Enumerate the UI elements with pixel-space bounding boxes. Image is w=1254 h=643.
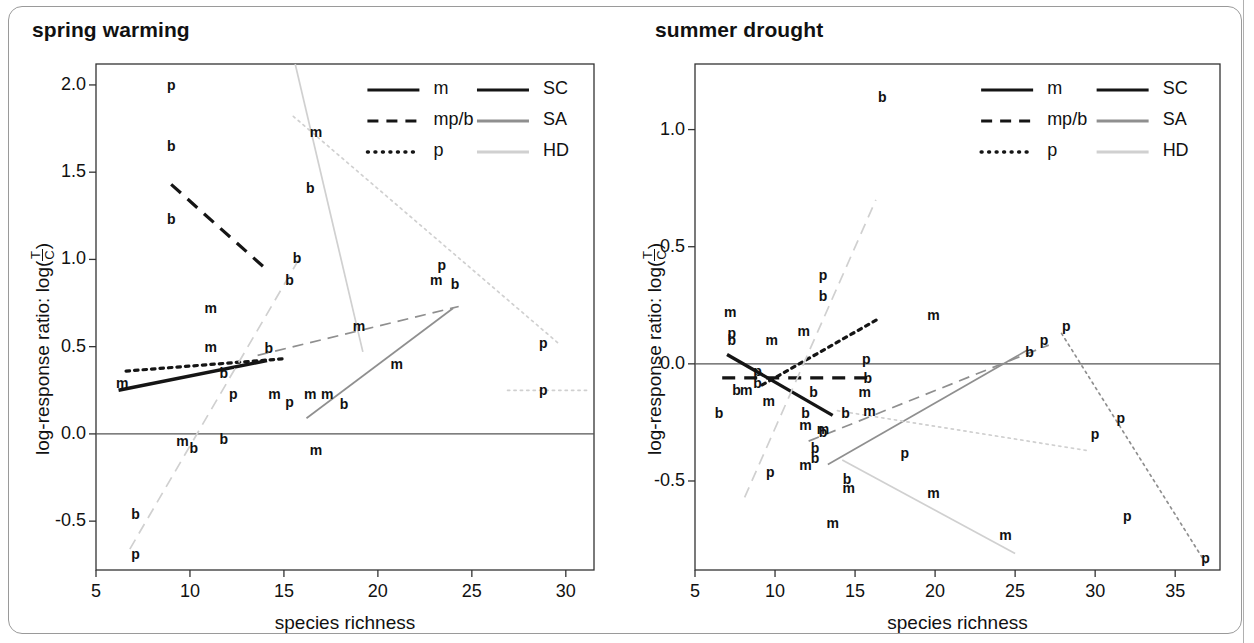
x-tick-label: 30 [552, 581, 580, 602]
data-point-label: b [265, 341, 274, 355]
data-point-label: p [539, 383, 548, 397]
data-point-label: m [927, 308, 939, 322]
y-axis-title: log-response ratio: log(TC) [642, 243, 670, 455]
data-point-label: b [811, 451, 820, 465]
data-point-label: b [167, 139, 176, 153]
legend-label-group: SA [1163, 109, 1187, 130]
data-point-label: m [724, 305, 736, 319]
legend-label-linestyle: mp/b [1047, 109, 1087, 130]
data-point-label: p [1040, 333, 1049, 347]
y-tick-label: 1.0 [34, 248, 86, 269]
y-tick-label: 0.0 [34, 423, 86, 444]
data-point-label: b [293, 251, 302, 265]
data-point-label: m [999, 528, 1011, 542]
trend-line-SC-p [762, 319, 877, 385]
legend-label-linestyle: p [433, 140, 443, 161]
trend-line-HD-m [295, 64, 363, 352]
data-point-label: m [304, 387, 316, 401]
data-point-label: b [189, 441, 198, 455]
data-point-label: m [204, 340, 216, 354]
legend-label-group: HD [543, 140, 569, 161]
x-tick-label: 15 [270, 581, 298, 602]
data-point-label: m [430, 273, 442, 287]
x-tick-label: 5 [681, 581, 709, 602]
legend-label-group: SC [1163, 78, 1188, 99]
trend-line-SA-m [828, 350, 1028, 465]
data-point-label: b [131, 507, 140, 521]
legend-label-group: HD [1163, 140, 1189, 161]
panel-summer-drought: summer drought species richness log-resp… [620, 0, 1254, 643]
data-point-label: p [539, 336, 548, 350]
legend-label-linestyle: p [1047, 140, 1057, 161]
y-tick-label: -0.5 [633, 470, 685, 491]
data-point-label: b [864, 371, 873, 385]
data-point-label: p [167, 78, 176, 92]
data-point-label: m [826, 516, 838, 530]
data-point-label: b [220, 366, 229, 380]
data-point-label: m [740, 383, 752, 397]
x-tick-label: 10 [176, 581, 204, 602]
data-point-label: b [220, 432, 229, 446]
legend-label-linestyle: m [433, 78, 448, 99]
data-point-label: b [167, 212, 176, 226]
data-point-label: b [819, 289, 828, 303]
y-tick-label: 1.0 [633, 119, 685, 140]
data-point-label: b [1025, 345, 1034, 359]
x-tick-label: 25 [458, 581, 486, 602]
legend-label-group: SC [543, 78, 568, 99]
data-point-label: m [310, 125, 322, 139]
y-tick-label: 0.5 [633, 236, 685, 257]
data-point-label: b [451, 277, 460, 291]
data-point-label: m [798, 324, 810, 338]
data-point-label: p [862, 352, 871, 366]
data-point-label: m [927, 486, 939, 500]
data-point-label: m [766, 333, 778, 347]
data-point-label: b [753, 376, 762, 390]
data-point-label: p [131, 547, 140, 561]
data-point-label: b [809, 385, 818, 399]
data-point-label: m [799, 418, 811, 432]
y-tick-label: 0.0 [633, 353, 685, 374]
data-point-label: b [285, 273, 294, 287]
data-point-label: b [715, 406, 724, 420]
trend-line-SA-p [1062, 333, 1206, 563]
plot-frame [695, 64, 1220, 570]
data-point-label: b [878, 90, 887, 104]
trend-line-SA-mp-b [809, 345, 1049, 441]
x-axis-title: species richness [96, 612, 594, 634]
data-point-label: b [819, 425, 828, 439]
data-point-label: b [841, 406, 850, 420]
legend-label-group: SA [543, 109, 567, 130]
x-tick-label: 35 [1161, 581, 1189, 602]
data-point-label: m [204, 301, 216, 315]
data-point-label: p [1116, 411, 1125, 425]
data-point-label: p [229, 387, 238, 401]
legend-label-linestyle: mp/b [433, 109, 473, 130]
legend-label-linestyle: m [1047, 78, 1062, 99]
data-point-label: m [310, 443, 322, 457]
data-point-label: p [1201, 551, 1210, 565]
data-point-label: m [762, 394, 774, 408]
data-point-label: m [799, 458, 811, 472]
y-tick-label: 2.0 [34, 74, 86, 95]
x-tick-label: 20 [921, 581, 949, 602]
x-tick-label: 5 [82, 581, 110, 602]
data-point-label: b [306, 181, 315, 195]
x-tick-label: 20 [364, 581, 392, 602]
data-point-label: p [1062, 319, 1071, 333]
data-point-label: p [1091, 427, 1100, 441]
y-tick-label: -0.5 [34, 510, 86, 531]
data-point-label: m [390, 357, 402, 371]
data-point-label: m [858, 385, 870, 399]
data-point-label: p [285, 395, 294, 409]
data-point-label: m [268, 387, 280, 401]
data-point-label: m [321, 387, 333, 401]
trend-line-SC-mp-b [171, 184, 269, 271]
data-point-label: p [900, 446, 909, 460]
data-point-label: p [766, 465, 775, 479]
y-tick-label: 1.5 [34, 161, 86, 182]
y-tick-label: 0.5 [34, 336, 86, 357]
data-point-label: p [728, 326, 737, 340]
data-point-label: p [819, 268, 828, 282]
data-point-label: m [842, 481, 854, 495]
